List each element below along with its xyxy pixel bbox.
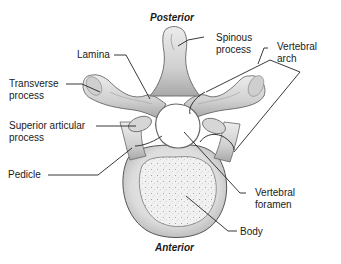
body-label: Body — [240, 226, 263, 238]
vertebral-arch-line-2: arch — [277, 53, 317, 65]
vertebral-body — [123, 145, 227, 238]
vertebral-arch-line-1: Vertebral — [277, 41, 317, 53]
spinous-process-line-1: Spinous — [216, 32, 252, 44]
superior-articular-process-line-1: Superior articular — [9, 120, 85, 132]
vertebral-arch-label: Vertebral arch — [277, 41, 317, 64]
pedicle-label: Pedicle — [8, 169, 41, 181]
spinous-process-label: Spinous process — [216, 32, 252, 55]
transverse-process-line-1: Transverse — [9, 78, 59, 90]
vertebral-foramen-line-1: Vertebral — [255, 187, 295, 199]
spinous-process-line-2: process — [216, 44, 252, 56]
lamina-label: Lamina — [77, 49, 110, 61]
vertebral-foramen-label: Vertebral foramen — [255, 187, 295, 210]
vertebral-foramen — [156, 104, 200, 148]
posterior-label: Posterior — [150, 12, 194, 24]
vertebral-foramen-line-2: foramen — [255, 199, 295, 211]
superior-articular-process-label: Superior articular process — [9, 120, 85, 143]
superior-articular-process-line-2: process — [9, 132, 85, 144]
transverse-process-line-2: process — [9, 90, 59, 102]
anterior-label: Anterior — [155, 242, 194, 254]
transverse-process-label: Transverse process — [9, 78, 59, 101]
